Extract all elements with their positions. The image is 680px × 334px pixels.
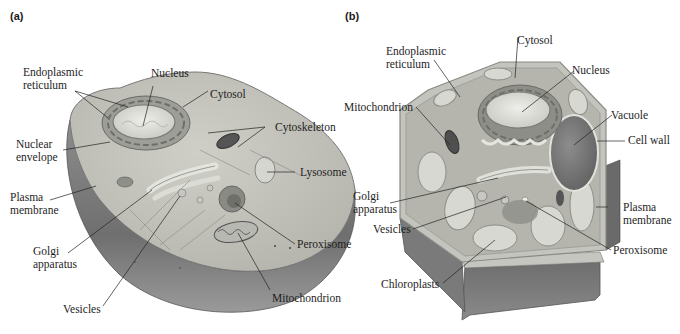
label-b-nucleus: Nucleus	[572, 64, 610, 77]
label-a-nuclear-envelope: Nuclear envelope	[16, 138, 58, 164]
label-b-vacuole: Vacuole	[611, 109, 648, 122]
label-a-golgi-apparatus: Golgi apparatus	[33, 245, 77, 271]
label-b-cell-wall: Cell wall	[628, 134, 670, 147]
label-b-vesicles: Vesicles	[373, 223, 411, 236]
label-a-endoplasmic-reticulum: Endoplasmic reticulum	[23, 66, 83, 92]
label-a-peroxisome: Peroxisome	[297, 238, 351, 251]
label-b-chloroplasts: Chloroplasts	[381, 278, 439, 291]
label-a-plasma-membrane: Plasma membrane	[10, 191, 59, 217]
label-b-endoplasmic-reticulum: Endoplasmic reticulum	[386, 45, 446, 71]
label-b-golgi-apparatus: Golgi apparatus	[353, 190, 397, 216]
label-b-mitochondrion: Mitochondrion	[344, 101, 413, 114]
label-b-peroxisome: Peroxisome	[613, 244, 667, 257]
label-b-plasma-membrane: Plasma membrane	[623, 201, 672, 227]
label-a-cytoskeleton: Cytoskeleton	[275, 121, 336, 134]
animal-cell	[67, 72, 355, 312]
label-a-vesicles: Vesicles	[63, 303, 101, 316]
label-a-cytosol: Cytosol	[210, 88, 246, 101]
label-a-nucleus: Nucleus	[151, 67, 189, 80]
label-a-lysosome: Lysosome	[300, 166, 347, 179]
label-a-mitochondrion: Mitochondrion	[272, 292, 341, 305]
label-b-cytosol: Cytosol	[517, 34, 553, 47]
